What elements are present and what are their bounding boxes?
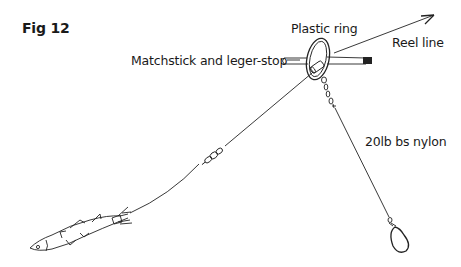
label-reel-line: Reel line (392, 37, 444, 50)
nylon-link (335, 108, 389, 217)
main-line (225, 73, 312, 146)
label-nylon: 20lb bs nylon (365, 136, 446, 149)
hook-trace (130, 164, 199, 213)
rig-diagram: Fig 12 Plastic ring Matchstick and leger… (0, 0, 461, 267)
leger-stop (309, 60, 324, 74)
label-plastic-ring: Plastic ring (291, 23, 357, 36)
trace-swivel (200, 147, 224, 167)
ring-swivel (322, 77, 337, 108)
plastic-ring (303, 36, 333, 82)
bait-fish (30, 207, 132, 251)
label-matchstick: Matchstick and leger-stop (131, 55, 287, 68)
matchstick (283, 57, 373, 64)
lead-weight (388, 218, 409, 253)
figure-title: Fig 12 (22, 21, 70, 35)
